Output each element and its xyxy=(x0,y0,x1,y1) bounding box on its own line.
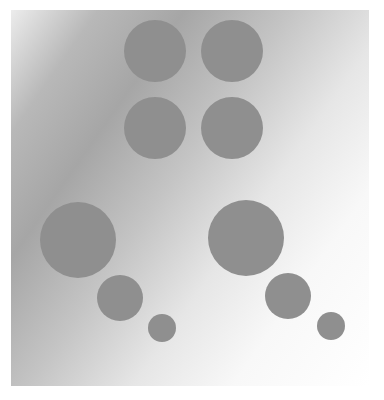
disc-small-left xyxy=(148,314,176,342)
disc-large-left xyxy=(40,202,116,278)
disc-middle-left xyxy=(124,97,186,159)
disc-top-right xyxy=(201,20,263,82)
disc-medium-right xyxy=(265,273,311,319)
disc-top-left xyxy=(124,20,186,82)
disc-medium-left xyxy=(97,275,143,321)
disc-middle-right xyxy=(201,97,263,159)
disc-large-right xyxy=(208,200,284,276)
gradient-background xyxy=(11,10,369,386)
disc-small-right xyxy=(317,312,345,340)
